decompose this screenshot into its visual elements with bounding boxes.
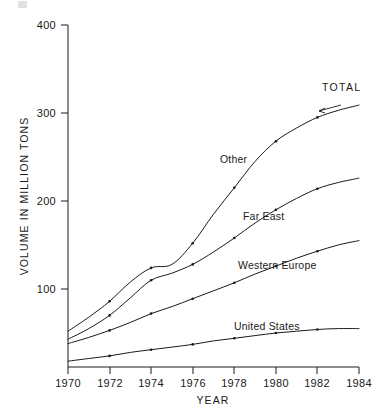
data-point-marker <box>233 187 236 190</box>
data-point-marker <box>275 140 278 143</box>
data-point-marker <box>191 343 194 346</box>
x-tick-label-1982: 1982 <box>304 377 330 389</box>
x-tick-label-1970: 1970 <box>55 377 81 389</box>
clipped-caption-mark <box>18 1 27 8</box>
y-tick-label-100: 100 <box>37 283 56 295</box>
series-markers-united-states <box>108 328 318 357</box>
data-point-marker <box>191 263 194 266</box>
x-tick-label-1972: 1972 <box>97 377 123 389</box>
x-tick-label-1978: 1978 <box>221 377 247 389</box>
series-label-total: TOTAL <box>322 81 361 93</box>
y-tick-label-200: 200 <box>37 195 56 207</box>
data-point-marker <box>150 312 153 315</box>
x-tick-label-1976: 1976 <box>180 377 206 389</box>
data-point-marker <box>316 116 319 119</box>
data-point-marker <box>108 314 111 317</box>
data-point-marker <box>275 332 278 335</box>
y-tick-label-300: 300 <box>37 107 56 119</box>
line-chart-canvas: 400 300 200 100 VOLUME IN MILLION TONS 1… <box>0 0 380 416</box>
series-label-other: Other <box>220 153 248 165</box>
x-tick-label-1974: 1974 <box>138 377 164 389</box>
series-label-far-east: Far East <box>243 210 284 222</box>
data-point-marker <box>150 267 153 270</box>
data-point-marker <box>316 328 319 331</box>
series-line-total <box>68 105 359 331</box>
data-point-marker <box>150 279 153 282</box>
data-point-marker <box>233 282 236 285</box>
data-point-marker <box>108 329 111 332</box>
data-point-marker <box>191 242 194 245</box>
data-point-marker <box>108 300 111 303</box>
y-tick-label-400: 400 <box>37 19 56 31</box>
series-line-united-states <box>68 329 359 362</box>
series-label-united-states: United States <box>234 320 300 332</box>
data-point-marker <box>233 237 236 240</box>
series-line-far-east <box>68 241 359 344</box>
data-point-marker <box>108 355 111 358</box>
series-label-western-europe-visible: Western Europe <box>238 259 316 271</box>
x-tick-label-1980: 1980 <box>263 377 289 389</box>
x-tick-label-1984: 1984 <box>346 377 372 389</box>
data-point-marker <box>316 250 319 253</box>
data-point-marker <box>233 337 236 340</box>
data-point-marker <box>191 297 194 300</box>
data-point-marker <box>316 187 319 190</box>
chart-figure: 400 300 200 100 VOLUME IN MILLION TONS 1… <box>0 0 380 416</box>
series-group <box>68 105 359 361</box>
x-axis-title: YEAR <box>197 394 230 406</box>
data-point-marker <box>150 348 153 351</box>
y-axis-title: VOLUME IN MILLION TONS <box>18 117 30 276</box>
